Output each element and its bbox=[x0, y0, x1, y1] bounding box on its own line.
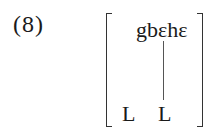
left-bracket bbox=[106, 13, 112, 127]
tone-2: L bbox=[158, 102, 171, 126]
tone-1: L bbox=[122, 102, 135, 126]
right-bracket bbox=[197, 13, 203, 127]
association-line bbox=[163, 41, 164, 100]
segmental-word: gbɛhɛ bbox=[136, 17, 187, 43]
example-number: (8) bbox=[13, 9, 44, 39]
